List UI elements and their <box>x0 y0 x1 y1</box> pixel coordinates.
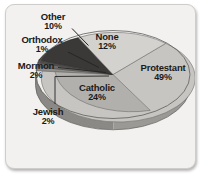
pie-chart: Protestant 49% Catholic 24% Jewish 2% Mo… <box>6 5 195 168</box>
chart-card: Protestant 49% Catholic 24% Jewish 2% Mo… <box>5 4 196 169</box>
